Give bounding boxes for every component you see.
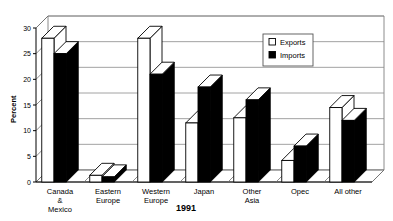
legend-label-imports: Imports (280, 51, 305, 60)
x-category-label: Europe (144, 196, 168, 205)
y-tick-label: 0 (27, 179, 31, 186)
bar-front (150, 74, 162, 182)
y-tick-label: 5 (27, 153, 31, 160)
bar-imports-2[interactable] (150, 62, 174, 182)
y-axis-title: Percent (9, 95, 18, 123)
bar-front (234, 118, 246, 182)
bar-front (246, 100, 258, 182)
chart-canvas: 051015202530PercentCanada&MexicoEasternE… (0, 0, 393, 221)
legend-swatch-exports (269, 39, 276, 46)
x-category-label: Canada (47, 187, 74, 196)
bar-side (162, 62, 174, 182)
bar-front (90, 175, 102, 182)
bar-side (210, 75, 222, 182)
bar-side (258, 88, 270, 182)
bar-side (66, 42, 78, 182)
x-category-label: Mexico (48, 205, 72, 214)
bar-imports-0[interactable] (54, 42, 78, 182)
x-category-label: Western (142, 187, 170, 196)
x-category-label: Japan (194, 187, 214, 196)
y-tick-label: 20 (23, 76, 31, 83)
x-category-label: Opec (291, 187, 309, 196)
bar-front (198, 87, 210, 182)
bar-front (342, 120, 354, 182)
bar-front (102, 177, 114, 182)
y-tick-label: 30 (23, 25, 31, 32)
bar-imports-3[interactable] (198, 75, 222, 182)
bar-front (282, 160, 294, 182)
bar-imports-4[interactable] (246, 88, 270, 182)
x-category-label: Other (243, 187, 262, 196)
legend: ExportsImports (263, 34, 313, 66)
bar-front (54, 54, 66, 182)
bar-imports-6[interactable] (342, 108, 366, 182)
bar-front (138, 38, 150, 182)
axis-top-depth (36, 16, 48, 28)
bar-front (186, 123, 198, 182)
bar-front (330, 108, 342, 182)
x-category-label: Asia (245, 196, 260, 205)
bar-side (354, 108, 366, 182)
x-axis-title: 1991 (176, 203, 196, 213)
y-tick-label: 15 (23, 102, 31, 109)
x-category-label: Europe (96, 196, 120, 205)
bar-front (294, 146, 306, 182)
y-tick-label: 10 (23, 127, 31, 134)
legend-label-exports: Exports (280, 38, 306, 47)
bar-front (42, 38, 54, 182)
y-tick-label: 25 (23, 50, 31, 57)
x-category-label: All other (334, 187, 362, 196)
x-category-label: & (57, 196, 62, 205)
legend-swatch-imports (269, 52, 276, 59)
x-category-label: Eastern (95, 187, 121, 196)
bar-chart: 051015202530PercentCanada&MexicoEasternE… (0, 0, 393, 221)
